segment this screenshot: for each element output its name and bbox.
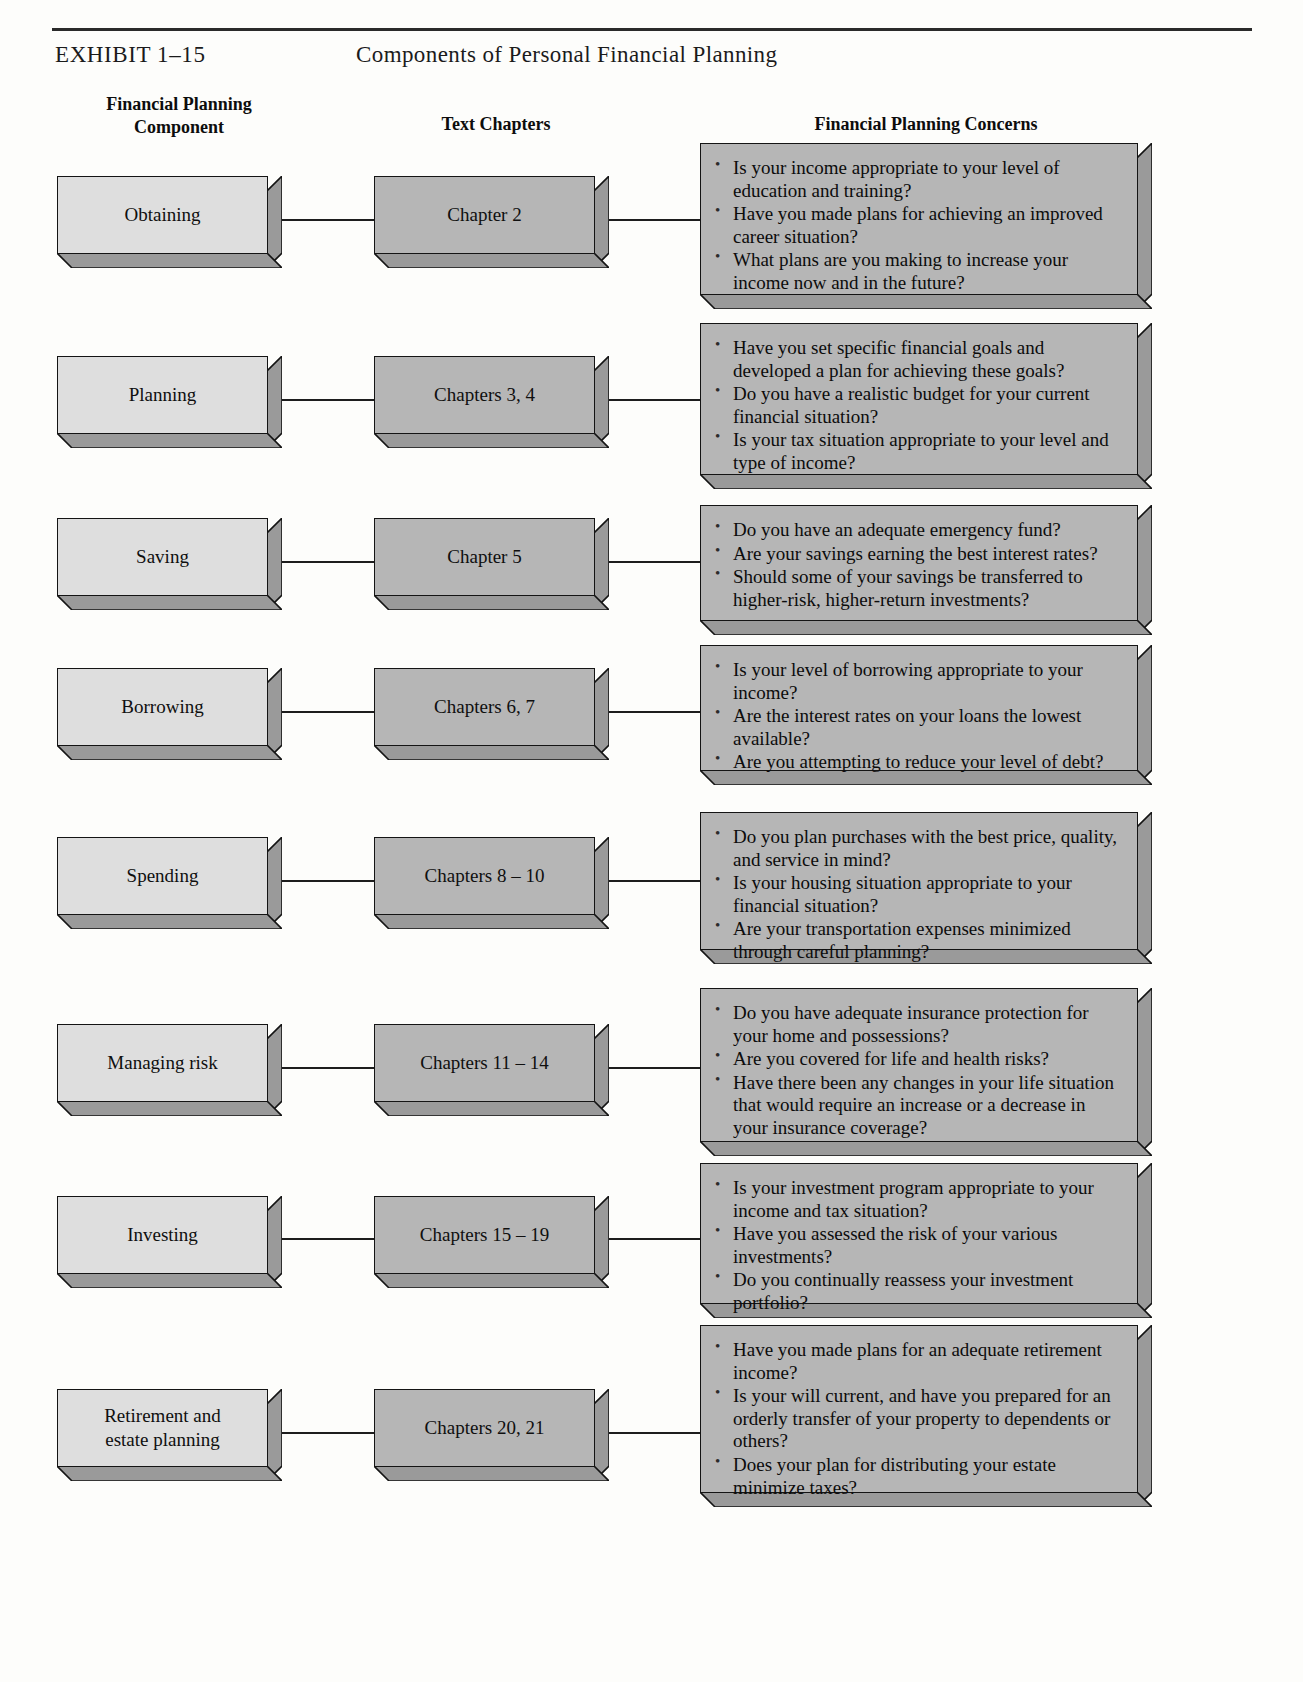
concern-item: Have you made plans for an adequate reti… bbox=[711, 1339, 1123, 1384]
box-front-face: Have you made plans for an adequate reti… bbox=[700, 1325, 1138, 1493]
connector-chapter-to-concerns-3 bbox=[608, 711, 701, 713]
component-box-label-line: Obtaining bbox=[58, 203, 267, 227]
concern-item: Do you have adequate insurance protectio… bbox=[711, 1002, 1123, 1047]
component-box-label: Retirement andestate planning bbox=[58, 1404, 267, 1452]
connector-chapter-to-concerns-2 bbox=[608, 561, 701, 563]
connector-component-to-chapter-5 bbox=[281, 1067, 375, 1069]
box-front-face: Planning bbox=[57, 356, 268, 434]
component-box-3: Borrowing bbox=[57, 668, 282, 760]
concern-item: What plans are you making to increase yo… bbox=[711, 249, 1123, 294]
box-bottom-panel bbox=[374, 1466, 609, 1481]
box-bottom-panel bbox=[374, 1101, 609, 1116]
connector-component-to-chapter-4 bbox=[281, 880, 375, 882]
concerns-box-2: Do you have an adequate emergency fund?A… bbox=[700, 505, 1152, 635]
chapter-box-label: Chapter 5 bbox=[375, 545, 594, 569]
connector-chapter-to-concerns-1 bbox=[608, 399, 701, 401]
chapter-box-2: Chapter 5 bbox=[374, 518, 609, 610]
concern-item: Have you made plans for achieving an imp… bbox=[711, 203, 1123, 248]
box-front-face: Saving bbox=[57, 518, 268, 596]
component-box-6: Investing bbox=[57, 1196, 282, 1288]
box-bottom-panel bbox=[57, 1466, 282, 1481]
concerns-box-4: Do you plan purchases with the best pric… bbox=[700, 812, 1152, 964]
concerns-box-6: Is your investment program appropriate t… bbox=[700, 1163, 1152, 1318]
chapter-box-1: Chapters 3, 4 bbox=[374, 356, 609, 448]
concern-item: Is your income appropriate to your level… bbox=[711, 157, 1123, 202]
box-bottom-panel bbox=[374, 595, 609, 610]
box-bottom-panel bbox=[57, 253, 282, 268]
concerns-box-0: Is your income appropriate to your level… bbox=[700, 143, 1152, 309]
box-bottom-panel bbox=[57, 595, 282, 610]
column-header-component-line2: Component bbox=[55, 116, 303, 139]
concern-item: Is your housing situation appropriate to… bbox=[711, 872, 1123, 917]
box-front-face: Chapters 3, 4 bbox=[374, 356, 595, 434]
box-bottom-panel bbox=[374, 1273, 609, 1288]
column-header-concerns: Financial Planning Concerns bbox=[700, 113, 1152, 136]
concern-item: Are your transportation expenses minimiz… bbox=[711, 918, 1123, 963]
connector-component-to-chapter-2 bbox=[281, 561, 375, 563]
component-box-1: Planning bbox=[57, 356, 282, 448]
concern-item: Have you set specific financial goals an… bbox=[711, 337, 1123, 382]
component-box-label: Planning bbox=[58, 383, 267, 407]
box-front-face: Chapters 8 – 10 bbox=[374, 837, 595, 915]
chapter-box-4: Chapters 8 – 10 bbox=[374, 837, 609, 929]
concern-item: Is your tax situation appropriate to you… bbox=[711, 429, 1123, 474]
concern-item: Is your will current, and have you prepa… bbox=[711, 1385, 1123, 1453]
component-box-label-line: Managing risk bbox=[58, 1051, 267, 1075]
connector-component-to-chapter-6 bbox=[281, 1238, 375, 1240]
component-box-label-line: Retirement and bbox=[58, 1404, 267, 1428]
concerns-box-1: Have you set specific financial goals an… bbox=[700, 323, 1152, 489]
concerns-box-3: Is your level of borrowing appropriate t… bbox=[700, 645, 1152, 785]
box-side-panel bbox=[1137, 1325, 1152, 1507]
concern-item: Are your savings earning the best intere… bbox=[711, 543, 1123, 566]
box-bottom-panel bbox=[57, 433, 282, 448]
component-box-label-line: Borrowing bbox=[58, 695, 267, 719]
concerns-list: Do you have adequate insurance protectio… bbox=[701, 989, 1137, 1151]
box-side-panel bbox=[1137, 505, 1152, 635]
column-header-component-line1: Financial Planning bbox=[55, 93, 303, 116]
concern-item: Do you have an adequate emergency fund? bbox=[711, 519, 1123, 542]
box-side-panel bbox=[1137, 323, 1152, 489]
concerns-list: Is your level of borrowing appropriate t… bbox=[701, 646, 1137, 785]
box-front-face: Spending bbox=[57, 837, 268, 915]
box-front-face: Do you plan purchases with the best pric… bbox=[700, 812, 1138, 950]
component-box-label: Investing bbox=[58, 1223, 267, 1247]
concern-item: Have you assessed the risk of your vario… bbox=[711, 1223, 1123, 1268]
connector-component-to-chapter-1 bbox=[281, 399, 375, 401]
chapter-box-label: Chapter 2 bbox=[375, 203, 594, 227]
concerns-list: Do you have an adequate emergency fund?A… bbox=[701, 506, 1137, 622]
box-side-panel bbox=[1137, 645, 1152, 785]
chapter-box-5: Chapters 11 – 14 bbox=[374, 1024, 609, 1116]
box-side-panel bbox=[1137, 1163, 1152, 1318]
connector-component-to-chapter-0 bbox=[281, 219, 375, 221]
component-box-label: Borrowing bbox=[58, 695, 267, 719]
component-box-label-line: Investing bbox=[58, 1223, 267, 1247]
component-box-7: Retirement andestate planning bbox=[57, 1389, 282, 1481]
component-box-label-line: estate planning bbox=[58, 1428, 267, 1452]
connector-component-to-chapter-7 bbox=[281, 1432, 375, 1434]
concern-item: Are the interest rates on your loans the… bbox=[711, 705, 1123, 750]
concern-item: Does your plan for distributing your est… bbox=[711, 1454, 1123, 1499]
box-front-face: Chapter 2 bbox=[374, 176, 595, 254]
concerns-box-5: Do you have adequate insurance protectio… bbox=[700, 988, 1152, 1156]
chapter-box-label: Chapters 6, 7 bbox=[375, 695, 594, 719]
box-front-face: Retirement andestate planning bbox=[57, 1389, 268, 1467]
concerns-box-7: Have you made plans for an adequate reti… bbox=[700, 1325, 1152, 1507]
box-front-face: Borrowing bbox=[57, 668, 268, 746]
chapter-box-7: Chapters 20, 21 bbox=[374, 1389, 609, 1481]
box-front-face: Have you set specific financial goals an… bbox=[700, 323, 1138, 475]
chapter-box-label: Chapters 15 – 19 bbox=[375, 1223, 594, 1247]
component-box-2: Saving bbox=[57, 518, 282, 610]
concern-item: Are you attempting to reduce your level … bbox=[711, 751, 1123, 774]
connector-chapter-to-concerns-5 bbox=[608, 1067, 701, 1069]
box-side-panel bbox=[1137, 812, 1152, 964]
component-box-label: Managing risk bbox=[58, 1051, 267, 1075]
chapter-box-label: Chapters 11 – 14 bbox=[375, 1051, 594, 1075]
component-box-5: Managing risk bbox=[57, 1024, 282, 1116]
box-bottom-panel bbox=[374, 253, 609, 268]
box-bottom-panel bbox=[57, 914, 282, 929]
chapter-box-3: Chapters 6, 7 bbox=[374, 668, 609, 760]
exhibit-label: EXHIBIT 1–15 bbox=[55, 42, 206, 68]
component-box-label-line: Saving bbox=[58, 545, 267, 569]
box-side-panel bbox=[1137, 143, 1152, 309]
component-box-label: Obtaining bbox=[58, 203, 267, 227]
